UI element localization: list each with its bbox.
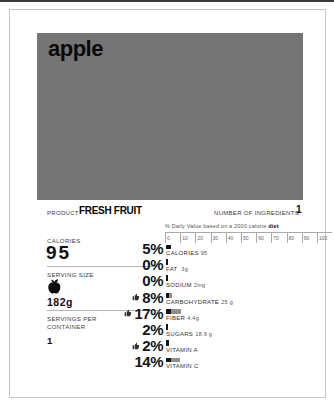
nutrient-name: VITAMIN A <box>166 347 198 353</box>
thumbs-up-icon <box>132 293 140 301</box>
nutrient-amount: 25 g <box>221 299 233 305</box>
nutrient-amount: 2mg <box>194 282 206 288</box>
value-bar <box>166 292 233 298</box>
nutrient-row: 14% VITAMIN C <box>100 355 332 371</box>
nutrient-label: FAT.3g <box>166 266 188 272</box>
bar-and-label: VITAMIN A <box>166 339 200 353</box>
bar-black-segment <box>166 275 168 281</box>
ingredients-label: NUMBER OF INGREDIENTS <box>214 210 299 216</box>
bar-and-label: SUGARS18.9 g <box>166 323 212 337</box>
product-label: PRODUCT <box>47 210 79 216</box>
value-bar <box>166 308 199 314</box>
percent-group: 17% <box>100 307 163 320</box>
nutrient-amount: 95 <box>201 250 208 256</box>
nutrient-label: VITAMIN A <box>166 347 200 353</box>
percent-group: 2% <box>100 339 163 352</box>
bar-gray-segment <box>171 358 180 363</box>
ingredients-value: 1 <box>296 204 302 215</box>
product-value: FRESH FRUIT <box>79 205 142 216</box>
value-bar <box>166 340 200 346</box>
percent-group: 0% <box>100 274 163 287</box>
percent-group: 2% <box>100 323 163 336</box>
product-title: apple <box>48 36 103 62</box>
percent-value: 17% <box>134 307 163 320</box>
bar-black-segment <box>166 340 169 346</box>
percent-value: 2% <box>142 323 163 336</box>
nutrient-name: FIBER <box>166 315 185 321</box>
bar-and-label: SODIUM2mg <box>166 274 205 288</box>
nutrient-name: CALORIES <box>166 250 199 256</box>
calories-value: 95 <box>46 242 71 264</box>
percent-value: 8% <box>142 291 163 304</box>
percent-value: 0% <box>142 274 163 287</box>
bar-black-segment <box>166 245 171 250</box>
bar-and-label: VITAMIN C <box>166 355 201 369</box>
percent-value: 14% <box>134 355 163 368</box>
nutrient-name: SUGARS <box>166 331 193 337</box>
thumbs-up-icon <box>124 309 132 317</box>
nutrient-amount: .3g <box>179 266 188 272</box>
bar-gray-segment <box>171 309 181 314</box>
nutrient-row: 2% SUGARS18.9 g <box>100 323 332 339</box>
bar-black-segment <box>166 259 168 265</box>
percent-group: 0% <box>100 258 163 271</box>
bar-black-segment <box>166 324 168 330</box>
nutrient-label: FIBER4.4g <box>166 315 199 321</box>
nutrient-amount: 18.9 g <box>195 331 212 337</box>
nutrient-amount: 4.4g <box>187 315 199 321</box>
nutrient-label: VITAMIN C <box>166 363 201 369</box>
value-bar <box>166 324 212 330</box>
daily-value-note-bold: diet <box>268 223 279 229</box>
nutrition-infographic-page: apple PRODUCT FRESH FRUIT NUMBER OF INGR… <box>0 0 334 406</box>
serving-size-value: 182g <box>47 296 73 308</box>
nutrient-row: 17% FIBER4.4g <box>100 307 332 323</box>
thumbs-up-icon <box>132 342 140 350</box>
bar-and-label: FAT.3g <box>166 258 188 272</box>
value-bar <box>166 356 201 362</box>
bar-and-label: CARBOHYDRATE25 g <box>166 291 233 305</box>
bar-and-label: FIBER4.4g <box>166 307 199 321</box>
percent-group: 8% <box>100 291 163 304</box>
percent-group: 5% <box>100 242 163 255</box>
nutrient-label: SODIUM2mg <box>166 282 205 288</box>
percent-group: 14% <box>100 355 163 368</box>
daily-value-note-text: % Daily Value based on a 2000 calorie <box>165 223 266 229</box>
nutrient-name: VITAMIN C <box>166 363 199 369</box>
value-bar <box>166 259 188 265</box>
percent-value: 5% <box>142 242 163 255</box>
nutrient-name: FAT <box>166 266 177 272</box>
value-bar <box>166 275 205 281</box>
apple-icon <box>46 278 63 295</box>
nutrient-row: 5% CALORIES95 <box>100 242 332 258</box>
bar-and-label: CALORIES95 <box>166 242 207 256</box>
daily-value-note: % Daily Value based on a 2000 calorie di… <box>165 223 279 229</box>
nutrient-label: SUGARS18.9 g <box>166 331 212 337</box>
nutrient-row: 0% FAT.3g <box>100 258 332 274</box>
nutrient-name: CARBOHYDRATE <box>166 299 219 305</box>
nutrient-name: SODIUM <box>166 282 192 288</box>
value-bar <box>166 243 207 249</box>
percent-value: 2% <box>142 339 163 352</box>
nutrient-row: 0% SODIUM2mg <box>100 274 332 290</box>
top-edge-line <box>0 0 334 2</box>
nutrient-label: CARBOHYDRATE25 g <box>166 299 233 305</box>
servings-per-container-value: 1 <box>47 335 52 346</box>
nutrient-label: CALORIES95 <box>166 250 207 256</box>
nutrient-rows: 5% CALORIES95 0% <box>100 242 332 372</box>
bar-gray-segment <box>169 293 172 298</box>
percent-value: 0% <box>142 258 163 271</box>
